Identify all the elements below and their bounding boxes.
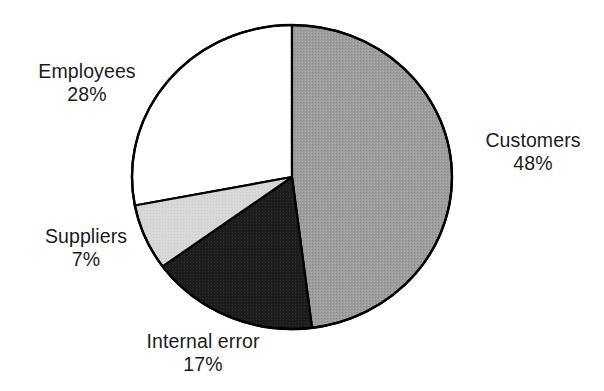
pie-label-suppliers-value: 7% [16,248,156,271]
pie-slice-employees [132,25,292,205]
pie-label-internal-error-name: Internal error [108,330,298,353]
pie-label-suppliers-name: Suppliers [16,225,156,248]
pie-slice-customers [292,25,452,328]
pie-label-internal-error-value: 17% [108,353,298,376]
pie-label-employees: Employees 28% [12,60,162,106]
pie-label-suppliers: Suppliers 7% [16,225,156,271]
pie-chart-figure: Employees 28% Customers 48% Suppliers 7%… [0,0,604,391]
pie-label-employees-name: Employees [12,60,162,83]
pie-label-customers-name: Customers [462,129,604,152]
pie-label-employees-value: 28% [12,83,162,106]
pie-label-internal-error: Internal error 17% [108,330,298,376]
pie-chart-graphic [0,0,604,391]
pie-label-customers-value: 48% [462,152,604,175]
pie-label-customers: Customers 48% [462,129,604,175]
